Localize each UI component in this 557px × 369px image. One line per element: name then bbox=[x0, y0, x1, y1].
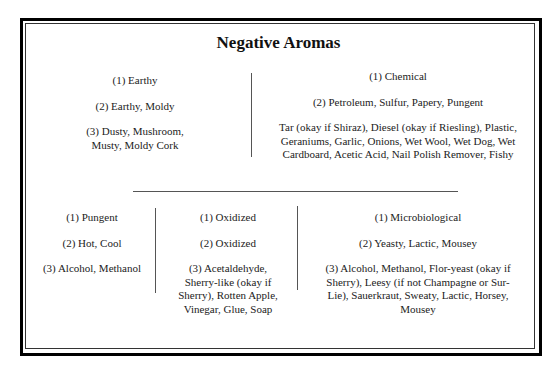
microbiological-level-1: (1) Microbiological bbox=[318, 211, 518, 225]
oxidized-level-2: (2) Oxidized bbox=[178, 237, 278, 251]
page-title: Negative Aromas bbox=[0, 33, 557, 53]
earthy-cell: (1) Earthy (2) Earthy, Moldy (3) Dusty, … bbox=[70, 74, 200, 164]
chemical-level-2: (2) Petroleum, Sulfur, Papery, Pungent bbox=[278, 96, 518, 110]
chemical-level-1: (1) Chemical bbox=[278, 70, 518, 84]
oxidized-level-1: (1) Oxidized bbox=[178, 211, 278, 225]
chemical-cell: (1) Chemical (2) Petroleum, Sulfur, Pape… bbox=[278, 70, 518, 174]
pungent-level-3: (3) Alcohol, Methanol bbox=[36, 262, 148, 276]
pungent-level-1: (1) Pungent bbox=[36, 211, 148, 225]
earthy-level-2: (2) Earthy, Moldy bbox=[70, 100, 200, 114]
pungent-level-2: (2) Hot, Cool bbox=[36, 237, 148, 251]
chemical-level-3: Tar (okay if Shiraz), Diesel (okay if Ri… bbox=[278, 121, 518, 162]
top-vertical-divider bbox=[251, 73, 252, 157]
earthy-level-3: (3) Dusty, Mushroom, Musty, Moldy Cork bbox=[70, 125, 200, 152]
bottom-vertical-divider-2 bbox=[297, 206, 298, 290]
microbiological-level-2: (2) Yeasty, Lactic, Mousey bbox=[318, 237, 518, 251]
horizontal-divider bbox=[133, 191, 458, 192]
oxidized-cell: (1) Oxidized (2) Oxidized (3) Acetaldehy… bbox=[178, 211, 278, 328]
oxidized-level-3: (3) Acetaldehyde, Sherry-like (okay if S… bbox=[178, 262, 278, 316]
bottom-vertical-divider-1 bbox=[155, 208, 156, 293]
microbiological-cell: (1) Microbiological (2) Yeasty, Lactic, … bbox=[318, 211, 518, 328]
earthy-level-1: (1) Earthy bbox=[70, 74, 200, 88]
pungent-cell: (1) Pungent (2) Hot, Cool (3) Alcohol, M… bbox=[36, 211, 148, 288]
microbiological-level-3: (3) Alcohol, Methanol, Flor-yeast (okay … bbox=[318, 262, 518, 316]
